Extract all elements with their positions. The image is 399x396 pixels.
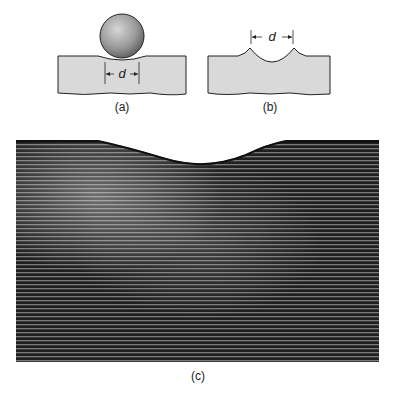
panel-b-diagram	[190, 0, 340, 115]
dimension-label-a: d	[102, 66, 142, 81]
caption-a: (a)	[102, 100, 142, 114]
ball-indenter	[100, 14, 144, 58]
caption-b: (b)	[250, 100, 290, 114]
micrograph-photo	[16, 140, 379, 362]
indented-specimen	[208, 48, 330, 95]
caption-c: (c)	[178, 369, 218, 383]
panel-a-diagram	[50, 0, 200, 115]
dimension-label-b: d	[252, 29, 292, 44]
